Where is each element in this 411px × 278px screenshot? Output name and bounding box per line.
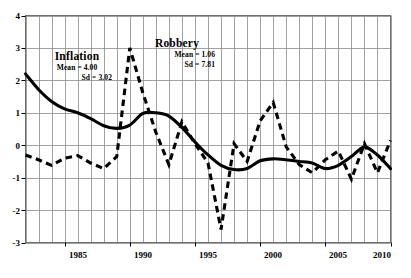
robbery-sd: Sd = 7.81 [139,60,215,69]
chart-container: 4 3 2 1 0 -1 -2 -3 1985 1990 1995 2000 2… [0,0,411,278]
annotation-robbery: Robbery Mean = 1.06 Sd = 7.81 [139,37,215,69]
inflation-title: Inflation [42,50,112,62]
y-tick-minus-2: -2 [2,206,20,216]
inflation-sd: Sd = 3.02 [42,73,112,82]
x-tick-1985: 1985 [58,250,98,260]
annotation-inflation: Inflation Mean = 4.00 Sd = 3.02 [42,50,112,82]
x-tick-2000: 2000 [253,250,293,260]
x-tick-1995: 1995 [188,250,228,260]
y-tick-0: 0 [2,141,20,151]
x-tick-2010: 2010 [362,250,402,260]
robbery-mean: Mean = 1.06 [139,50,215,59]
y-axis-ticks [22,17,26,244]
x-tick-1990: 1990 [123,250,163,260]
x-tick-2005: 2005 [318,250,358,260]
y-tick-2: 2 [2,76,20,86]
y-tick-minus-3: -3 [2,238,20,248]
robbery-title: Robbery [139,37,215,49]
y-tick-4: 4 [2,11,20,21]
y-tick-3: 3 [2,43,20,53]
y-tick-1: 1 [2,108,20,118]
inflation-mean: Mean = 4.00 [42,63,112,72]
y-tick-minus-1: -1 [2,173,20,183]
